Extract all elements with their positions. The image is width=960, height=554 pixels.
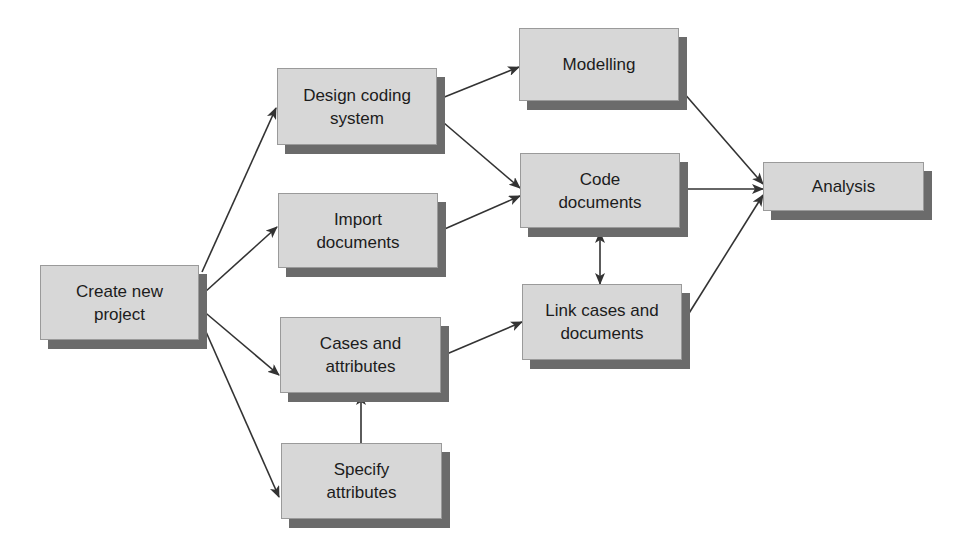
node-specify-attributes: Specify attributes bbox=[281, 443, 442, 519]
arrow-cases-to-link bbox=[442, 322, 522, 356]
arrow-create-to-cases bbox=[201, 309, 279, 375]
arrow-link-to-analysis bbox=[686, 195, 763, 318]
node-design-coding-system: Design coding system bbox=[277, 68, 437, 145]
arrow-design-to-modelling bbox=[437, 67, 519, 100]
node-modelling: Modelling bbox=[519, 28, 679, 101]
arrow-modelling-to-analysis bbox=[683, 92, 763, 184]
node-cases-and-attributes: Cases and attributes bbox=[280, 317, 441, 393]
node-create-new-project: Create new project bbox=[40, 265, 199, 340]
node-import-documents: Import documents bbox=[278, 193, 438, 268]
arrow-create-to-design bbox=[202, 108, 276, 272]
arrow-import-to-code bbox=[440, 196, 520, 231]
workflow-diagram: Create new project Design coding system … bbox=[0, 0, 960, 554]
node-code-documents: Code documents bbox=[520, 153, 680, 228]
arrow-design-to-code bbox=[437, 117, 520, 188]
arrow-create-to-specify bbox=[199, 316, 279, 497]
node-link-cases-and-documents: Link cases and documents bbox=[522, 284, 682, 360]
arrow-create-to-import bbox=[205, 227, 277, 292]
node-analysis: Analysis bbox=[763, 162, 924, 211]
